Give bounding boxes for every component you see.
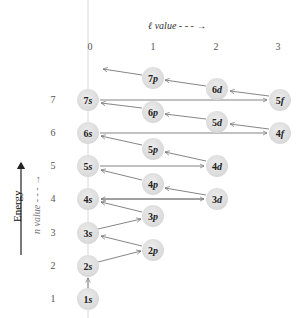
l-tick-1: 1 — [151, 42, 156, 52]
n-tick-7: 7 — [51, 95, 56, 105]
orbital-4d: 4d — [206, 155, 228, 177]
orbital-6p: 6p — [142, 101, 164, 123]
n-axis-label: n value - - - → — [32, 175, 42, 234]
orbital-2p: 2p — [142, 239, 164, 261]
orbital-1s: 1s — [77, 288, 99, 310]
orbital-5f: 5f — [269, 89, 291, 111]
orbital-6s: 6s — [77, 122, 99, 144]
n-tick-6: 6 — [51, 128, 56, 138]
l-tick-3: 3 — [276, 42, 281, 52]
n-tick-4: 4 — [51, 194, 56, 204]
orbital-6d: 6d — [206, 78, 228, 100]
l-axis-label: ℓ value - - - → — [148, 21, 206, 31]
orbital-4s: 4s — [77, 188, 99, 210]
orbital-4f: 4f — [269, 122, 291, 144]
l-tick-0: 0 — [88, 42, 93, 52]
orbital-3d: 3d — [206, 188, 228, 210]
l-tick-2: 2 — [214, 42, 219, 52]
aufbau-diagram: ℓ value - - - → 0 1 2 3 1 2 3 4 5 6 7 En… — [0, 0, 299, 318]
orbital-5d: 5d — [206, 111, 228, 133]
orbital-7s: 7s — [77, 89, 99, 111]
orbital-2s: 2s — [77, 255, 99, 277]
orbital-4p: 4p — [142, 173, 164, 195]
orbital-3s: 3s — [77, 222, 99, 244]
n-tick-1: 1 — [51, 294, 56, 304]
energy-label: Energy — [12, 190, 22, 222]
n-tick-5: 5 — [51, 161, 56, 171]
orbital-5s: 5s — [77, 155, 99, 177]
filling-arrows — [88, 69, 269, 288]
orbital-5p: 5p — [142, 138, 164, 160]
orbital-7p: 7p — [142, 67, 164, 89]
orbital-3p: 3p — [142, 205, 164, 227]
n-tick-2: 2 — [51, 261, 56, 271]
n-tick-3: 3 — [51, 228, 56, 238]
